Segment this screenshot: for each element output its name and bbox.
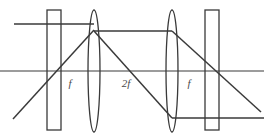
optical-ray-diagram: f 2f f [0,0,264,139]
diagram-canvas: f 2f f [0,0,264,139]
ray-mid-diagonal [94,31,172,118]
label-focal-mid: 2f [122,77,133,89]
label-focal-right: f [187,77,192,89]
aperture-right [205,10,219,130]
aperture-left [47,10,61,130]
ray-incoming-diagonal [13,30,94,119]
label-focal-left: f [68,77,73,89]
